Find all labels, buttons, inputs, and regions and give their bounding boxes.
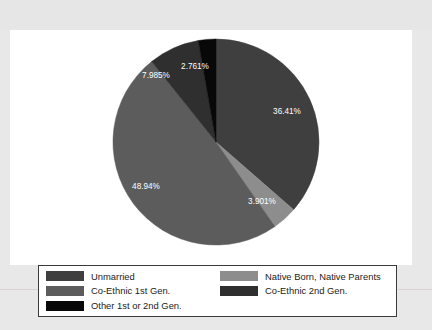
legend-label: Unmarried	[91, 272, 135, 281]
legend-entry: Native Born, Native Parents	[218, 269, 392, 284]
pie-slice-value-label: 2.761%	[181, 62, 209, 71]
plot-panel: 36.41%3.901%48.94%7.985%2.761%	[10, 30, 412, 265]
legend-label: Other 1st or 2nd Gen.	[91, 301, 182, 310]
pie-slices-group	[113, 39, 319, 245]
legend-swatch	[220, 271, 258, 281]
pie-svg: 36.41%3.901%48.94%7.985%2.761%	[10, 30, 412, 265]
legend-label: Co-Ethnic 1st Gen.	[91, 286, 170, 295]
legend-swatch	[46, 301, 84, 311]
legend-entry: Other 1st or 2nd Gen.	[44, 298, 218, 313]
legend-label: Native Born, Native Parents	[265, 272, 381, 281]
pie-slice-value-label: 48.94%	[132, 182, 160, 191]
background-rule-right	[398, 289, 432, 290]
figure-container: 36.41%3.901%48.94%7.985%2.761% Unmarried…	[0, 0, 432, 330]
legend: UnmarriedNative Born, Native ParentsCo-E…	[38, 265, 397, 317]
legend-label: Co-Ethnic 2nd Gen.	[265, 286, 347, 295]
legend-grid: UnmarriedNative Born, Native ParentsCo-E…	[39, 266, 396, 316]
pie-slice-value-label: 36.41%	[273, 107, 301, 116]
figure-top-margin	[0, 0, 432, 30]
legend-swatch	[46, 271, 84, 281]
legend-entry: Co-Ethnic 1st Gen.	[44, 284, 218, 299]
pie-slice-value-label: 7.985%	[142, 71, 170, 80]
legend-entry: Co-Ethnic 2nd Gen.	[218, 284, 392, 299]
legend-entry: Unmarried	[44, 269, 218, 284]
pie-slice-value-label: 3.901%	[248, 197, 276, 206]
legend-swatch	[220, 286, 258, 296]
background-rule-left	[0, 289, 38, 290]
pie-chart: 36.41%3.901%48.94%7.985%2.761%	[10, 30, 412, 265]
legend-swatch	[46, 286, 84, 296]
